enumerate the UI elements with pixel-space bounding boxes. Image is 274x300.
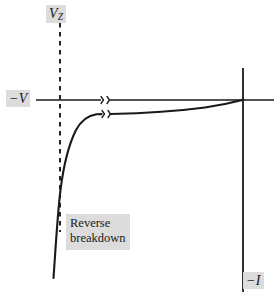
iv-curve-leakage-branch xyxy=(111,100,244,114)
reverse-breakdown-annotation: Reversebreakdown xyxy=(66,214,130,250)
voltage-axis-label: −V xyxy=(6,90,30,107)
reverse-breakdown-line-2: breakdown xyxy=(70,231,126,246)
iv-curve-breakdown-branch xyxy=(54,114,102,278)
iv-characteristic-plot xyxy=(0,0,274,300)
zener-voltage-label: VZ xyxy=(46,5,66,23)
curve-break-mark-icon xyxy=(102,111,111,118)
zener-voltage-symbol: V xyxy=(49,6,58,21)
zener-iv-figure: VZ −V −I Reversebreakdown xyxy=(0,0,274,300)
zener-voltage-subscript: Z xyxy=(58,12,63,22)
current-axis-label: −I xyxy=(243,272,264,289)
reverse-breakdown-line-1: Reverse xyxy=(70,216,126,231)
axis-break-mark-icon xyxy=(101,97,110,104)
